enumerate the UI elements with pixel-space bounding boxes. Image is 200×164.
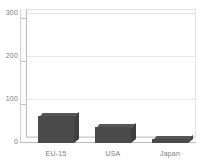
y-axis-tick-label-200: 200 [0,52,18,60]
bar-usa[interactable] [95,127,131,143]
y-axis-tick-label-300: 300 [0,9,18,17]
bar-eu-15[interactable] [38,116,74,143]
y-axis-tick-label-0: 0 [0,138,18,146]
bar-usa-front [95,127,131,143]
bar-eu-15-front [38,116,74,143]
x-axis-tick-label-usa: USA [87,149,139,158]
plot-area [20,9,196,146]
bars-layer [20,9,196,146]
y-axis-tick-label-100: 100 [0,95,18,103]
bar-chart: 300 200 100 0 [0,0,200,164]
x-axis-tick-labels: EU-15 USA Japan [20,149,196,161]
x-axis-tick-label-japan: Japan [144,149,196,158]
bar-japan-front [152,139,188,143]
bar-japan[interactable] [152,139,188,143]
y-axis-tick-labels: 300 200 100 0 [0,0,18,164]
x-axis-tick-label-eu-15: EU-15 [30,149,82,158]
